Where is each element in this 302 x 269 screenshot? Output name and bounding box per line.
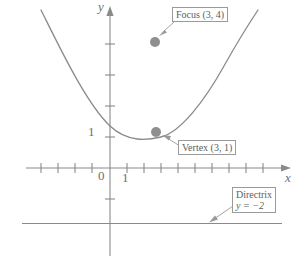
- origin-tick-label: 0: [98, 168, 105, 184]
- focus-callout: Focus (3, 4): [172, 7, 228, 22]
- x-axis-label: x: [285, 170, 291, 186]
- focus-point: [150, 37, 160, 47]
- parabola-curve: [41, 10, 258, 139]
- y-one-tick-label: 1: [88, 124, 95, 140]
- directrix-callout: Directrix y = −2: [232, 187, 276, 213]
- directrix-leader-line: [209, 206, 233, 223]
- directrix-callout-line2: y = −2: [236, 200, 272, 211]
- y-axis: [105, 6, 115, 256]
- x-one-tick-label: 1: [122, 170, 129, 186]
- focus-leader-line: [159, 22, 174, 36]
- directrix-callout-line1: Directrix: [236, 189, 272, 200]
- x-axis: [26, 163, 291, 173]
- parabola-figure: y x 0 1 1 Focus (3, 4) Vertex (3, 1) Dir…: [0, 0, 302, 269]
- vertex-callout: Vertex (3, 1): [178, 140, 236, 155]
- vertex-point: [151, 127, 161, 137]
- figure-canvas: [0, 0, 302, 269]
- y-axis-label: y: [98, 0, 104, 15]
